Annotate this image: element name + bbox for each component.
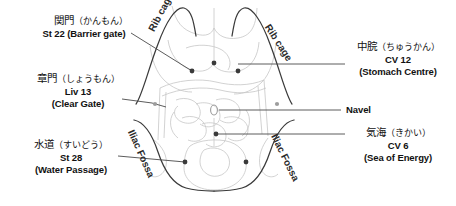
label-st22-japanese: 関門（かんもん） <box>8 14 160 28</box>
label-liv13-name: (Clear Gate) <box>8 98 148 110</box>
viscera-outlines <box>148 6 278 190</box>
label-st28-kanji: 水道 <box>34 138 54 150</box>
label-cv6-code: CV 6 <box>340 140 456 152</box>
label-cv6-kanji: 気海 <box>366 126 386 138</box>
label-st22-kanji: 関門 <box>54 14 74 26</box>
label-st22-english: St 22 (Barrier gate) <box>8 28 160 40</box>
label-cv12: 中脘（ちゅうかん） CV 12 (Stomach Centre) <box>340 40 456 78</box>
acupoint-st28-right-dot <box>244 160 249 165</box>
label-liv13-code: Liv 13 <box>8 86 148 98</box>
label-st28-japanese: 水道（すいどう） <box>4 138 138 152</box>
acupoint-cv6-dot <box>214 132 219 137</box>
label-cv12-japanese: 中脘（ちゅうかん） <box>340 40 456 54</box>
acupoint-cv12-dot <box>212 61 217 66</box>
label-navel: Navel <box>346 104 371 116</box>
label-st28-name: (Water Passage) <box>4 164 138 176</box>
label-cv6-name: (Sea of Energy) <box>340 152 456 164</box>
navel-marker <box>211 105 218 115</box>
label-cv12-name: (Stomach Centre) <box>340 66 456 78</box>
label-cv6-kana: （きかい） <box>386 128 431 138</box>
acupoint-liv13-dot <box>153 102 157 106</box>
label-cv12-code: CV 12 <box>340 54 456 66</box>
label-st28: 水道（すいどう） St 28 (Water Passage) <box>4 138 138 176</box>
acupoint-st28-dot <box>183 160 188 165</box>
acupoint-st22-dot <box>190 69 195 74</box>
label-cv12-kanji: 中脘 <box>357 40 377 52</box>
acupoint-st22-right-dot <box>236 69 241 74</box>
label-st28-kana: （すいどう） <box>54 140 108 150</box>
label-st22-kana: （かんもん） <box>74 16 128 26</box>
label-navel-name: Navel <box>346 104 371 116</box>
label-cv6-japanese: 気海（きかい） <box>340 126 456 140</box>
label-liv13-kana: （しょうもん） <box>57 74 120 84</box>
label-st22: 関門（かんもん） St 22 (Barrier gate) <box>8 14 160 40</box>
label-liv13: 章門（しょうもん） Liv 13 (Clear Gate) <box>8 72 148 110</box>
label-cv12-kana: （ちゅうかん） <box>377 42 440 52</box>
label-liv13-kanji: 章門 <box>37 72 57 84</box>
figure-canvas: Rib cage Rib cage Iliac Fossa Iliac Foss… <box>0 0 456 206</box>
label-cv6: 気海（きかい） CV 6 (Sea of Energy) <box>340 126 456 164</box>
label-st28-code: St 28 <box>4 152 138 164</box>
label-liv13-japanese: 章門（しょうもん） <box>8 72 148 86</box>
acupoint-liv13-right-dot <box>275 102 279 106</box>
